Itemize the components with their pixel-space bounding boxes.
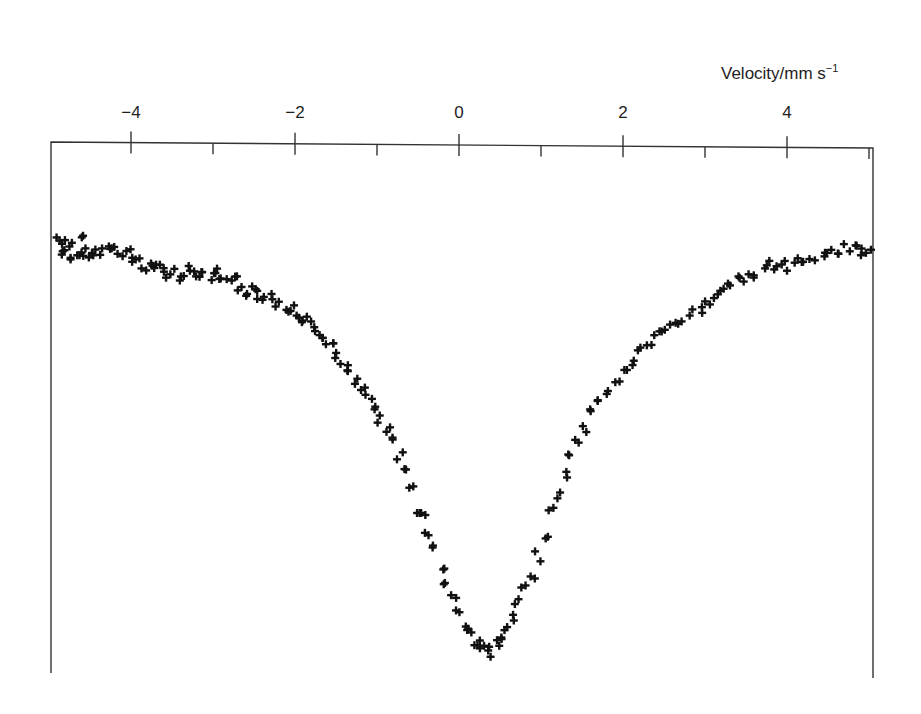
data-point-plus-marker — [374, 419, 382, 427]
data-point-plus-marker — [79, 232, 87, 240]
data-point-plus-marker — [361, 391, 369, 399]
x-tick-label: 4 — [782, 103, 791, 122]
data-point-plus-marker — [78, 233, 86, 241]
mossbauer-chart: −4−2024 — [0, 0, 921, 714]
data-point-plus-marker — [783, 267, 791, 275]
data-point-plus-marker — [405, 484, 413, 492]
x-tick-label: −2 — [285, 103, 304, 122]
data-point-plus-marker — [400, 465, 408, 473]
data-point-plus-marker — [223, 275, 231, 283]
x-axis-title-superscript: −1 — [826, 62, 839, 74]
data-point-plus-marker — [846, 247, 854, 255]
data-point-plus-marker — [565, 451, 573, 459]
data-point-plus-marker — [332, 349, 340, 357]
data-point-plus-marker — [509, 611, 517, 619]
data-point-plus-marker — [368, 395, 376, 403]
plot-frame — [51, 142, 873, 678]
data-point-plus-marker — [185, 262, 193, 270]
data-point-plus-marker — [329, 339, 337, 347]
data-point-plus-marker — [811, 256, 819, 264]
data-point-plus-marker — [399, 448, 407, 456]
data-point-plus-marker — [439, 565, 447, 573]
x-axis-title: Velocity/mm s−1 — [721, 62, 838, 84]
data-point-plus-marker — [531, 547, 539, 555]
data-point-plus-marker — [393, 455, 401, 463]
data-point-plus-marker — [629, 361, 637, 369]
data-point-plus-marker — [208, 276, 216, 284]
x-tick-label: −4 — [121, 103, 140, 122]
data-point-plus-marker — [563, 474, 571, 482]
data-point-plus-marker — [594, 397, 602, 405]
data-point-plus-marker — [440, 580, 448, 588]
data-point-plus-marker — [630, 357, 638, 365]
data-point-plus-marker — [344, 367, 352, 375]
plot-border — [51, 142, 873, 678]
data-point-plus-marker — [536, 557, 544, 565]
x-tick-label: 0 — [454, 103, 463, 122]
data-point-plus-marker — [611, 378, 619, 386]
data-point-plus-marker — [840, 240, 848, 248]
x-axis-title-main: Velocity/mm s — [721, 64, 826, 83]
data-point-plus-marker — [376, 412, 384, 420]
data-point-plus-marker — [835, 250, 843, 258]
x-tick-label: 2 — [618, 103, 627, 122]
x-axis-tick-labels: −4−2024 — [121, 103, 791, 122]
data-points — [53, 232, 875, 661]
data-point-plus-marker — [409, 482, 417, 490]
data-point-plus-marker — [336, 360, 344, 368]
